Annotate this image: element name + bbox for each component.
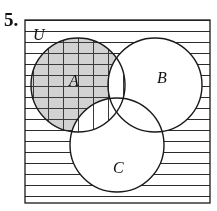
venn-diagram-figure: 5. U A B C (0, 0, 217, 211)
venn-diagram-canvas: 5. U A B C (0, 0, 217, 211)
set-c-label: C (113, 159, 124, 176)
problem-number-label: 5. (4, 9, 18, 30)
universe-set-label: U (33, 26, 46, 43)
set-b-label: B (157, 69, 167, 86)
set-a-label: A (68, 72, 79, 89)
